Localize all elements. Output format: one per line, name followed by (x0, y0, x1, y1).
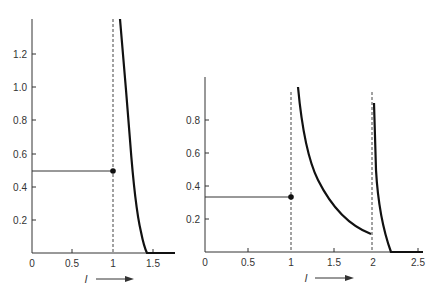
x-tick-label: 1.5 (327, 257, 341, 268)
curve (120, 19, 175, 253)
y-tick-label: 0.6 (13, 149, 27, 160)
right-chart: 0.2 0.4 0.6 0.8 0 0.5 1 1.5 2 2.5 l (186, 77, 425, 284)
curve-1 (298, 87, 371, 234)
y-tick-label: 1.2 (13, 49, 27, 60)
data-point (288, 194, 294, 200)
y-tick-label: 1.0 (13, 82, 27, 93)
x-tick-label: 0 (202, 257, 208, 268)
y-tick-label: 0.8 (13, 115, 27, 126)
x-tick-label: 2 (370, 257, 376, 268)
x-tick-label: 1 (110, 258, 116, 269)
y-tick-label: 0.4 (186, 181, 200, 192)
arrow-head-icon (125, 276, 134, 282)
x-tick-label: 0.5 (241, 257, 255, 268)
data-point (110, 168, 116, 174)
x-tick-label: 0.5 (65, 258, 79, 269)
left-chart: 0.2 0.4 0.6 0.8 1.0 1.2 0 0.5 1 1.5 l (13, 19, 175, 285)
y-tick-label: 0.2 (186, 214, 200, 225)
y-tick-label: 0.4 (13, 182, 27, 193)
arrow-head-icon (345, 275, 354, 281)
x-tick-label: 0 (29, 258, 35, 269)
y-tick-label: 0.8 (186, 115, 200, 126)
x-axis-label: l (305, 272, 308, 284)
y-tick-label: 0.6 (186, 148, 200, 159)
x-tick-label: 2.5 (411, 257, 425, 268)
x-tick-label: 1 (288, 257, 294, 268)
x-axis-label: l (85, 273, 88, 285)
figure: 0.2 0.4 0.6 0.8 1.0 1.2 0 0.5 1 1.5 l 0.… (0, 0, 442, 297)
curve-2 (374, 103, 423, 252)
y-tick-label: 0.2 (13, 215, 27, 226)
x-tick-label: 1.5 (146, 258, 160, 269)
